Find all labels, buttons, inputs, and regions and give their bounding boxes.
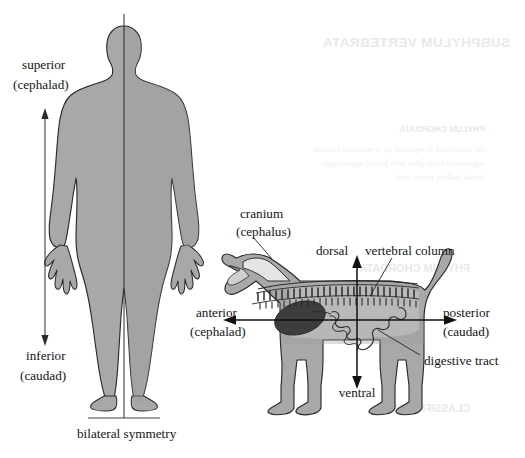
anatomy-figure-svg: SUBPHYLUM VERTEBRATA PHYLUM CHORDATA the… [0,0,525,458]
label-posterior-line1: posterior [443,305,490,320]
label-cranium-line1: cranium [240,206,284,221]
bleed-subheading: PHYLUM CHORDATA [399,124,485,134]
label-vertebral-column: vertebral column [365,243,455,258]
bleed-footer-upper: PHYLUM CHORDATA [359,262,470,274]
label-cranium-line2: (cephalus) [236,224,291,239]
label-posterior-line2: (caudad) [443,324,489,339]
caption-bilateral-symmetry: bilateral symmetry [77,426,177,441]
label-inferior-line2: (caudad) [20,368,66,383]
label-dorsal: dorsal [316,243,349,258]
bleed-heading: SUBPHYLUM VERTEBRATA [322,35,510,50]
bleed-body-line-3: dorsal hollow nerve cord [395,172,485,182]
label-superior-line1: superior [22,57,66,72]
label-anterior-line1: anterior [196,305,238,320]
anatomy-figure: SUBPHYLUM VERTEBRATA PHYLUM CHORDATA the… [0,0,525,458]
label-digestive-tract: digestive tract [424,353,499,368]
bleed-body-line-2: segmented body plan with paired appendag… [321,158,485,168]
label-inferior-line1: inferior [26,348,66,363]
bleed-body-line-1: the notochord is replaced by a vertebral… [313,144,485,154]
label-superior-line2: (cephalad) [13,77,69,92]
label-anterior-line2: (cephalad) [190,324,246,339]
label-ventral: ventral [339,385,376,400]
